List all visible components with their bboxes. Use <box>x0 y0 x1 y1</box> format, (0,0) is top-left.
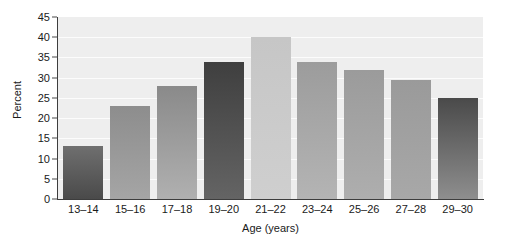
x-axis-tick-labels: 13–1415–1617–1819–2021–2223–2425–2627–28… <box>58 203 483 215</box>
y-axis-tick-label: 45 <box>38 11 50 23</box>
x-axis-line <box>57 199 484 200</box>
plot-area <box>58 17 483 199</box>
bar-slot <box>294 17 341 199</box>
bar[interactable] <box>344 70 384 199</box>
bar-slot <box>434 17 481 199</box>
bar[interactable] <box>204 62 244 200</box>
bar[interactable] <box>438 98 478 199</box>
bar-series <box>58 17 483 199</box>
y-axis-tick-label: 40 <box>38 31 50 43</box>
y-axis-tick-label: 20 <box>38 112 50 124</box>
bar-slot <box>341 17 388 199</box>
x-axis-tick-label: 19–20 <box>200 203 247 215</box>
y-axis-tick-label: 25 <box>38 92 50 104</box>
x-axis-title: Age (years) <box>58 222 483 234</box>
bar-slot <box>200 17 247 199</box>
bar-slot <box>60 17 107 199</box>
y-axis-tick-label: 10 <box>38 153 50 165</box>
x-axis-tick-label: 25–26 <box>341 203 388 215</box>
x-axis-tick-label: 15–16 <box>107 203 154 215</box>
y-axis-title-text: Percent <box>11 81 23 119</box>
bar[interactable] <box>391 80 431 199</box>
x-axis-tick-label: 27–28 <box>387 203 434 215</box>
x-axis-tick-label: 23–24 <box>294 203 341 215</box>
bar-slot <box>107 17 154 199</box>
bar-slot <box>154 17 201 199</box>
bar-slot <box>387 17 434 199</box>
x-axis-tick-label: 21–22 <box>247 203 294 215</box>
bar[interactable] <box>251 37 291 199</box>
bar-chart-figure: Percent 051015202530354045 13–1415–1617–… <box>0 0 506 242</box>
bar[interactable] <box>157 86 197 199</box>
x-axis-tick-label: 13–14 <box>60 203 107 215</box>
bar[interactable] <box>110 106 150 199</box>
y-axis-tick-label: 15 <box>38 132 50 144</box>
y-axis-tick-label: 35 <box>38 51 50 63</box>
bar-slot <box>247 17 294 199</box>
y-axis-tick-label: 0 <box>44 193 50 205</box>
y-axis-title: Percent <box>6 0 28 199</box>
y-axis-tick-labels: 051015202530354045 <box>26 17 50 199</box>
y-axis-tick-label: 5 <box>44 173 50 185</box>
bar[interactable] <box>297 62 337 200</box>
x-axis-tick-label: 17–18 <box>154 203 201 215</box>
x-axis-tick-label: 29–30 <box>434 203 481 215</box>
y-axis-tick-label: 30 <box>38 72 50 84</box>
bar[interactable] <box>63 146 103 199</box>
